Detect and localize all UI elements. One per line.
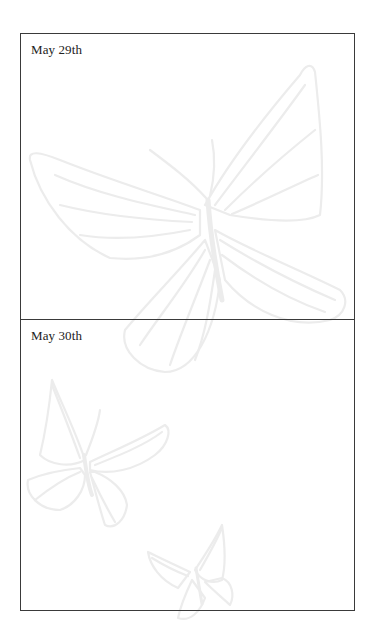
entry-body[interactable]	[31, 350, 344, 600]
journal-table: May 29th May 30th	[20, 33, 355, 611]
journal-entry-may-29[interactable]: May 29th	[21, 34, 354, 320]
entry-date: May 29th	[31, 42, 82, 58]
entry-body[interactable]	[31, 64, 344, 309]
entry-date: May 30th	[31, 328, 82, 344]
journal-entry-may-30[interactable]: May 30th	[21, 320, 354, 610]
journal-page: May 29th May 30th	[0, 0, 377, 635]
